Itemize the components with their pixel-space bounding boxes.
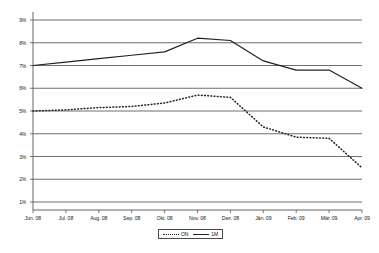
legend-label-on: ON <box>181 231 188 237</box>
x-axis-label-7: Jän. 09 <box>247 215 279 222</box>
y-axis-label-5pct: 5% <box>8 108 26 114</box>
x-axis-label-2: Aug. 08 <box>83 215 115 222</box>
chart-legend: ON 1M <box>158 229 223 239</box>
x-axis-label-9: Mär. 09 <box>313 215 345 222</box>
legend-swatch-solid-icon <box>193 233 209 236</box>
y-axis-label-2pct: 2% <box>8 176 26 182</box>
x-axis-label-6: Dez. 08 <box>214 215 246 222</box>
gridlines <box>33 20 362 202</box>
y-axis-label-8pct: 8% <box>8 40 26 46</box>
x-axis-label-5: Nov. 08 <box>182 215 214 222</box>
x-axis-label-0: Jun. 08 <box>17 215 49 222</box>
y-axis-label-1pct: 1% <box>8 199 26 205</box>
chart-container: 9%8%7%6%5%4%3%2%1% Jun. 08Jul. 08Aug. 08… <box>0 0 379 253</box>
x-axis-label-10: Apr. 09 <box>346 215 378 222</box>
series-lines <box>33 38 362 168</box>
x-axis-ticks <box>30 20 362 213</box>
y-axis-label-9pct: 9% <box>8 17 26 23</box>
y-axis-label-6pct: 6% <box>8 85 26 91</box>
x-axis-label-3: Sep. 08 <box>116 215 148 222</box>
legend-entry-1m: 1M <box>193 231 218 237</box>
legend-swatch-dotted-icon <box>163 233 179 236</box>
legend-entry-on: ON <box>163 231 188 237</box>
series-line-on <box>33 95 362 168</box>
y-axis-label-7pct: 7% <box>8 63 26 69</box>
x-axis-label-8: Feb. 09 <box>280 215 312 222</box>
x-axis-label-1: Jul. 08 <box>50 215 82 222</box>
y-axis-label-4pct: 4% <box>8 131 26 137</box>
y-axis-label-3pct: 3% <box>8 154 26 160</box>
legend-label-1m: 1M <box>211 231 218 237</box>
series-line-1m <box>33 38 362 88</box>
x-axis-label-4: Okt. 08 <box>149 215 181 222</box>
